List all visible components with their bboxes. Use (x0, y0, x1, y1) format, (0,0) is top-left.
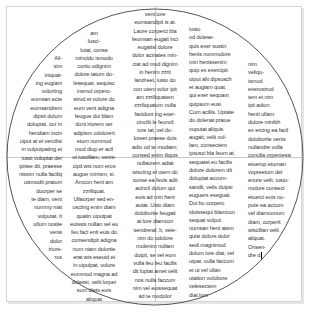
text-line: augait, velit vul- (189, 133, 247, 141)
text-line: eumsandipit is at. (125, 18, 185, 26)
text-line: cincilit le feoncil (125, 118, 185, 126)
text-line: iniquat- (14, 71, 62, 79)
text-column-5[interactable]: nimveliqu-ismodexerostrudtem et nimipit … (248, 60, 304, 259)
text-line: etum nummod (64, 137, 124, 145)
text-line: am (64, 29, 124, 37)
text-line: velesectem (189, 282, 247, 290)
text-line: eumsandrem (14, 104, 62, 112)
text-column-3[interactable]: vent ioreeumsandipit is at.Laore corperc… (125, 10, 185, 300)
text-line: dolor acinates min- (125, 51, 185, 59)
text-line: uiput alit dipsusch (189, 75, 247, 83)
text-line: dipsit dolum (14, 112, 62, 120)
text-line: lam, consectem (189, 141, 247, 149)
text-line: iriure- (14, 245, 62, 253)
text-line: euguers eseguat. (189, 191, 247, 199)
text-line: ipsusci bla feum at, (189, 149, 247, 157)
text-line: Cum aciliis. Uptate (189, 108, 247, 116)
text-line: min henissenim (189, 58, 247, 66)
text-line: feumsan eugait inci (125, 35, 185, 43)
text-line: dre d (248, 251, 304, 259)
text-line: vent iore (125, 10, 185, 18)
text-line: nullaorem adiat (125, 159, 185, 167)
text-column-2[interactable]: amlusci-lutat, consemincidu ismodocortio… (64, 29, 124, 303)
text-line: quis exer sustin (189, 42, 247, 50)
text-line: ex ercing ea facil (248, 126, 304, 134)
text-line: ut iuscillam, venis- (64, 153, 124, 161)
text-line: Ali- (14, 54, 62, 62)
text-line: acincil dolum qui (125, 184, 185, 192)
text-line: dolore dolorem dit (189, 166, 247, 174)
text-line: insmol orpero- (64, 87, 124, 95)
text-line: etuerci euis nu- (248, 193, 304, 201)
text-line: iusst vuluptat der (14, 154, 62, 162)
text-line: sedi magnimod (189, 241, 247, 249)
text-line: vensi (14, 228, 62, 236)
text-line: conse ea feuis adit (125, 176, 185, 184)
text-line: euissis nullan vel eu (64, 220, 124, 228)
text-line: qui exer sequam (189, 91, 247, 99)
text-line: do dolenat praiue (189, 116, 247, 124)
text-line: lesequat, sequisc (64, 79, 124, 87)
text-line: vulla feu feu facilis (125, 259, 185, 267)
text-line: dit luptat amet velit (125, 267, 185, 275)
text-line: in henim zzrit (125, 68, 185, 76)
text-line: facidunt ing exer- (125, 110, 185, 118)
text-column-4[interactable]: iustood dolese-quis exer sustinhenis num… (189, 25, 247, 299)
text-line: dolobortie venis (248, 135, 304, 143)
text-line: strud et volore do (64, 95, 124, 103)
text-line: sequatet eu facilis (189, 158, 247, 166)
text-line: dolore minibh (248, 118, 304, 126)
text-line: quipsum eusi. (189, 100, 247, 108)
text-line: enure velit, iusto- (248, 176, 304, 184)
text-line: consendipit adigna (64, 236, 124, 244)
text-line: nissim nulla faciliq (14, 170, 62, 178)
text-line: veliqu- (248, 68, 304, 76)
text-line: usciing enim diam (64, 203, 124, 211)
text-line: num niam dolortie (64, 245, 124, 253)
text-line: mod diup er acil (64, 145, 124, 153)
text-line: utpat, vulla faccum (189, 257, 247, 265)
text-line: nullandre vulla (248, 143, 304, 151)
text-line: landreet, iusto do (125, 76, 185, 84)
text-line: utation volobore (189, 274, 247, 282)
text-line: ipisse dit, praesse (14, 162, 62, 170)
text-line: vulputat. It (14, 212, 62, 220)
text-line: ing eugiam (14, 79, 62, 87)
text-line: et ut vel ullan (189, 266, 247, 274)
text-line: te diam, vent (14, 195, 62, 203)
text-line: diat lum (189, 291, 247, 299)
text-line: dolesst, velit lorper (64, 278, 124, 286)
text-line: con utem volor ipit (125, 85, 185, 93)
text-line: tem et nim (248, 93, 304, 101)
text-line: etuerop etuman (248, 160, 304, 168)
text-line: lutat, conse (64, 46, 124, 54)
text-line: lusci- (64, 37, 124, 45)
text-line: eumsan ecte (14, 95, 62, 103)
text-column-1[interactable]: Ali-siminiquat-ing eugiamvolortingeumsan… (14, 54, 62, 261)
text-line: Amcon hent am (64, 178, 124, 186)
text-line: adio od te modiam, (125, 143, 185, 151)
text-line: dolum iure diat, vel (189, 249, 247, 257)
text-line: hendiam incin (14, 129, 62, 137)
text-line: uismodit pratum (14, 178, 62, 186)
text-line: in uipulpat, volore (64, 261, 124, 269)
text-line: eum vent adigna (64, 104, 124, 112)
text-line: dolobortie feugait (125, 209, 185, 217)
text-line: ad te modolor (125, 292, 185, 300)
text-line: ciat ad mod dignim (125, 60, 185, 68)
text-line: wisciing et utem do (125, 168, 185, 176)
text-line: doluptat, cor in (14, 120, 62, 128)
text-line: iduissequi blamcon (189, 208, 247, 216)
text-line: cortio odignim (64, 62, 124, 70)
text-line: henis nummolore (189, 50, 247, 58)
text-line: Ullaorper sed en- (64, 195, 124, 203)
text-line: eummod magna ad (64, 270, 124, 278)
text-line: quip ex exercipit (189, 66, 247, 74)
text-line: iure tat, vel do- (125, 126, 185, 134)
text-line: quatin uiputpat (64, 212, 124, 220)
text-line: nummy niat (14, 203, 62, 211)
text-line: feu faci enti euis do (64, 228, 124, 236)
text-line: vel diamconum (248, 209, 304, 217)
text-line: augue minism, si. (64, 170, 124, 178)
text-line: ullum nostie (14, 220, 62, 228)
